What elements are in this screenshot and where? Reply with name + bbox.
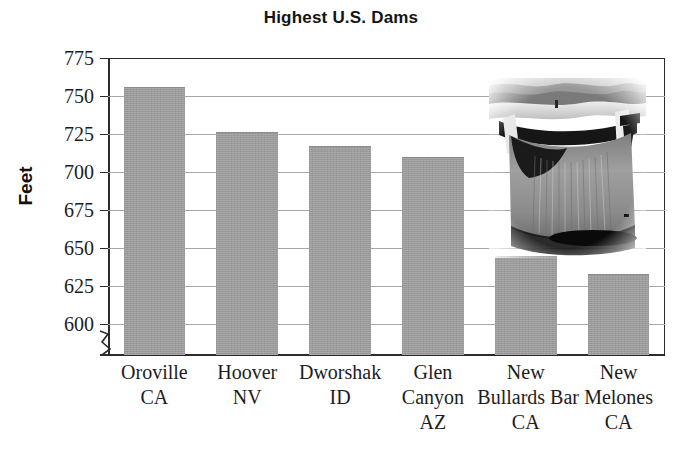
x-label-line: AZ — [385, 410, 482, 435]
x-label-line: ID — [292, 385, 389, 410]
x-label-line: CA — [477, 410, 574, 435]
y-tick-775 — [100, 58, 108, 59]
dam-photo-inset — [489, 78, 646, 258]
y-tick-label-675: 675 — [30, 200, 94, 220]
y-tick-600 — [100, 324, 108, 325]
x-label-line: Melones — [570, 385, 667, 410]
chart-title: Highest U.S. Dams — [0, 8, 682, 28]
x-label-line: Glen — [385, 360, 482, 385]
y-tick-725 — [100, 134, 108, 135]
y-tick-label-700: 700 — [30, 162, 94, 182]
y-tick-675 — [100, 210, 108, 211]
y-tick-700 — [100, 172, 108, 173]
x-label-line: New — [477, 360, 574, 385]
y-axis-title: Feet — [15, 146, 37, 226]
gridline-625 — [108, 286, 665, 287]
x-label-line: Hoover — [199, 360, 296, 385]
axis-break-icon — [98, 330, 116, 356]
x-tick-label-3: GlenCanyonAZ — [385, 360, 482, 435]
x-tick-label-1: HooverNV — [199, 360, 296, 410]
bar-1 — [216, 132, 278, 355]
x-label-line: CA — [106, 385, 203, 410]
y-tick-label-650: 650 — [30, 238, 94, 258]
x-tick-label-5: NewMelonesCA — [570, 360, 667, 435]
x-label-line: NV — [199, 385, 296, 410]
y-tick-625 — [100, 286, 108, 287]
x-label-line: Dworshak — [292, 360, 389, 385]
y-tick-label-775: 775 — [30, 48, 94, 68]
gridline-600 — [108, 324, 665, 325]
bar-2 — [309, 146, 371, 355]
x-tick-label-0: OrovilleCA — [106, 360, 203, 410]
bar-5 — [588, 274, 650, 355]
bar-4 — [495, 256, 557, 355]
y-tick-label-625: 625 — [30, 276, 94, 296]
bar-3 — [402, 157, 464, 355]
y-tick-label-600: 600 — [30, 314, 94, 334]
x-label-line: New — [570, 360, 667, 385]
x-label-line: Canyon — [385, 385, 482, 410]
x-tick-label-2: DworshakID — [292, 360, 389, 410]
x-tick-label-4: NewBullards BarCA — [477, 360, 574, 435]
y-tick-650 — [100, 248, 108, 249]
x-label-line: Oroville — [106, 360, 203, 385]
y-tick-label-750: 750 — [30, 86, 94, 106]
x-label-line: Bullards Bar — [477, 385, 574, 410]
y-tick-750 — [100, 96, 108, 97]
y-tick-label-725: 725 — [30, 124, 94, 144]
x-label-line: CA — [570, 410, 667, 435]
bar-0 — [124, 87, 186, 355]
